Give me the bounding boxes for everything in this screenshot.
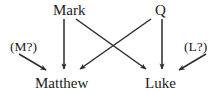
node-label-q: Q — [155, 3, 166, 18]
node-label-m-hypothetical: (M?) — [10, 40, 37, 54]
node-label-matthew: Matthew — [35, 76, 88, 91]
edge-l-to-luke — [179, 54, 206, 70]
edge-m-to-matthew — [19, 54, 46, 70]
node-label-mark: Mark — [53, 3, 86, 18]
edge-mark-to-luke — [76, 19, 146, 69]
four-source-hypothesis-diagram: Mark Q (M?) (L?) Matthew Luke — [0, 0, 224, 93]
node-label-l-hypothetical: (L?) — [184, 40, 207, 54]
node-label-luke: Luke — [145, 76, 176, 91]
edge-q-to-matthew — [80, 19, 151, 69]
